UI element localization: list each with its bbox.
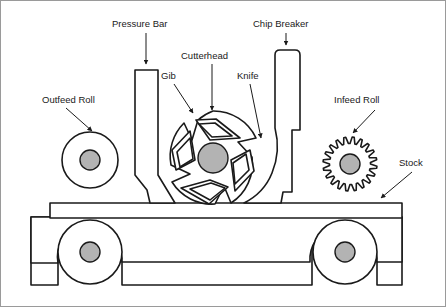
cutterhead-hub (198, 143, 228, 173)
label-cutterhead: Cutterhead (181, 50, 228, 61)
label-pressure-bar: Pressure Bar (112, 18, 167, 29)
leader-gib (174, 84, 193, 113)
diagram-root: Pressure Bar Chip Breaker Cutterhead Gib… (0, 0, 446, 307)
leader-outfeed-roll (66, 108, 92, 131)
label-infeed-roll: Infeed Roll (334, 94, 379, 105)
planer-cutterhead-diagram: Pressure Bar Chip Breaker Cutterhead Gib… (0, 0, 446, 307)
leader-stock (381, 172, 412, 198)
outfeed-roll-part (62, 132, 118, 188)
label-knife: Knife (237, 70, 259, 81)
leader-infeed-roll (353, 110, 375, 133)
label-chip-breaker: Chip Breaker (253, 18, 308, 29)
pressure-bar-part (135, 70, 175, 203)
stock-board (50, 203, 402, 218)
bed-roll-left (58, 220, 122, 284)
cutterhead-part (170, 111, 256, 204)
bed-roll-right (313, 220, 377, 284)
infeed-roll-part (323, 137, 377, 191)
label-outfeed-roll: Outfeed Roll (42, 94, 95, 105)
label-gib: Gib (161, 70, 176, 81)
label-stock: Stock (399, 157, 423, 168)
